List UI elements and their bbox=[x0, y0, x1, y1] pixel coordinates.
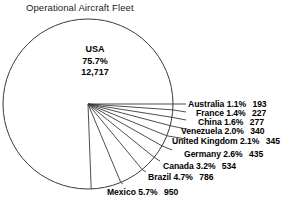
leader-line-canada bbox=[154, 157, 160, 161]
slice-label-germany: Germany 2.6% 435 bbox=[184, 149, 263, 159]
slice-label-united-kingdom-value: 345 bbox=[266, 136, 280, 146]
slice-label-brazil: Brazil 4.7% 786 bbox=[148, 172, 213, 182]
slice-label-mexico-value: 950 bbox=[164, 187, 178, 197]
leader-line-germany bbox=[162, 146, 172, 150]
slice-label-germany-name: Germany bbox=[184, 149, 221, 159]
slice-label-usa: USA 75.7% 12,717 bbox=[55, 44, 135, 79]
slice-label-mexico-name: Mexico bbox=[107, 187, 136, 197]
slice-label-brazil-percent: 4.7% bbox=[173, 172, 192, 182]
slice-label-canada-percent: 3.2% bbox=[196, 161, 215, 171]
slice-label-united-kingdom-name: United Kingdom bbox=[172, 136, 238, 146]
slice-label-venezuela: Venezuela 2.0% 340 bbox=[181, 126, 264, 136]
leader-line-china bbox=[172, 117, 186, 120]
slice-label-usa-name: USA bbox=[55, 44, 135, 56]
slice-label-germany-value: 435 bbox=[249, 149, 263, 159]
leader-line-mexico bbox=[121, 182, 123, 184]
slice-label-venezuela-name: Venezuela bbox=[181, 126, 222, 136]
slice-label-mexico-percent: 5.7% bbox=[138, 187, 157, 197]
slice-label-canada: Canada 3.2% 534 bbox=[163, 161, 236, 171]
slice-label-brazil-value: 786 bbox=[199, 172, 213, 182]
slice-label-united-kingdom-percent: 2.1% bbox=[240, 136, 259, 146]
slice-label-canada-value: 534 bbox=[222, 161, 236, 171]
slice-label-united-kingdom: United Kingdom 2.1% 345 bbox=[172, 136, 280, 146]
slice-label-brazil-name: Brazil bbox=[148, 172, 171, 182]
slice-label-venezuela-value: 340 bbox=[250, 126, 264, 136]
pie-chart-figure: Operational Aircraft Fleet bbox=[0, 0, 297, 207]
slice-label-canada-name: Canada bbox=[163, 161, 194, 171]
leader-line-brazil bbox=[142, 169, 146, 172]
leader-line-france bbox=[173, 110, 186, 112]
slice-label-venezuela-percent: 2.0% bbox=[224, 126, 243, 136]
slice-label-mexico: Mexico 5.7% 950 bbox=[107, 187, 178, 197]
slice-label-usa-value: 12,717 bbox=[55, 67, 135, 79]
slice-label-germany-percent: 2.6% bbox=[223, 149, 242, 159]
slice-label-usa-percent: 75.7% bbox=[55, 56, 135, 68]
